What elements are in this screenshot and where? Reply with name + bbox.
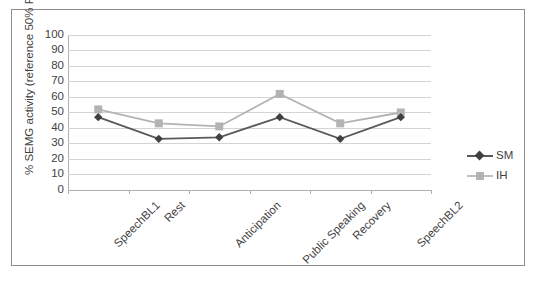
legend-label-ih: IH (496, 170, 508, 182)
plot-area (68, 35, 431, 190)
data-point-sm-4 (336, 134, 344, 142)
chart-frame: % SEMG activity (reference 50% RVC) 0102… (11, 9, 525, 266)
x-tick-label-anticipation: Anticipation (233, 199, 284, 250)
y-tick-label-50: 50 (51, 106, 64, 118)
chart-legend: SM IH (467, 146, 527, 186)
legend-marker-diamond-icon (467, 150, 493, 162)
y-tick-label-10: 10 (51, 168, 64, 180)
data-point-sm-2 (215, 133, 223, 141)
series-layer (68, 35, 431, 190)
y-tick-label-80: 80 (51, 60, 64, 72)
data-point-ih-4 (336, 119, 344, 127)
x-tick-2 (189, 190, 190, 194)
y-tick-label-40: 40 (51, 122, 64, 134)
data-point-ih-0 (94, 105, 102, 113)
x-tick-1 (129, 190, 130, 194)
legend-label-sm: SM (496, 150, 513, 162)
legend-item-sm: SM (467, 146, 527, 166)
y-tick-label-70: 70 (51, 75, 64, 87)
y-tick-label-90: 90 (51, 44, 64, 56)
x-tick-4 (310, 190, 311, 194)
legend-item-ih: IH (467, 166, 527, 186)
y-tick-label-100: 100 (45, 29, 64, 41)
y-tick-label-0: 0 (58, 184, 64, 196)
series-line-ih (98, 93, 401, 126)
data-point-ih-2 (215, 122, 223, 130)
x-tick-0 (68, 190, 69, 194)
x-tick-label-rest: Rest (162, 199, 187, 224)
x-tick-3 (250, 190, 251, 194)
x-tick-label-speechbl2: SpeechBL2 (414, 199, 465, 250)
x-tick-5 (371, 190, 372, 194)
data-point-ih-1 (155, 119, 163, 127)
y-tick-label-20: 20 (51, 153, 64, 165)
y-axis-tick-labels: 0102030405060708090100 (12, 10, 64, 265)
data-point-sm-3 (276, 112, 284, 120)
data-point-sm-1 (155, 134, 163, 142)
x-tick-6 (431, 190, 432, 194)
y-tick-label-60: 60 (51, 91, 64, 103)
y-tick-label-30: 30 (51, 137, 64, 149)
data-point-sm-0 (94, 112, 102, 120)
data-point-ih-3 (276, 89, 284, 97)
legend-marker-square-icon (467, 170, 493, 182)
x-tick-label-speechbl1: SpeechBL1 (112, 199, 163, 250)
